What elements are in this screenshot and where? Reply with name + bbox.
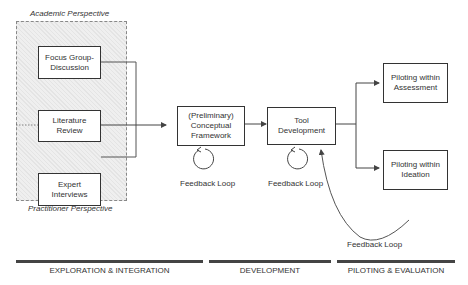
phase-bar-piloting: [337, 260, 455, 263]
box-label: Literature: [53, 116, 87, 126]
phase-bar-development: [209, 260, 331, 263]
framework-feedback-label: Feedback Loop: [180, 179, 235, 188]
phase-label-exploration: EXPLORATION & INTEGRATION: [16, 266, 203, 275]
box-label: Piloting within: [391, 73, 440, 83]
box-label: Ideation: [391, 170, 440, 180]
box-label: Focus Group-: [45, 53, 94, 63]
box-label: Piloting within: [391, 160, 440, 170]
box-label: Framework: [188, 131, 233, 141]
focus-group-discussion-box: Focus Group-Discussion: [38, 46, 101, 79]
phase-label-piloting: PILOTING & EVALUATION: [337, 266, 455, 275]
conceptual-framework-box: (Preliminary)ConceptualFramework: [177, 106, 245, 146]
piloting-ideation-box: Piloting withinIdeation: [383, 150, 448, 190]
tool-development-box: ToolDevelopment: [267, 107, 336, 145]
box-label: Assessment: [391, 83, 440, 93]
box-label: Interviews: [51, 190, 87, 200]
phase-label-development: DEVELOPMENT: [209, 266, 331, 275]
box-label: Expert: [51, 180, 87, 190]
piloting-feedback-label: Feedback Loop: [347, 240, 402, 249]
box-label: Review: [53, 126, 87, 136]
box-label: Conceptual: [188, 121, 233, 131]
box-label: Development: [278, 126, 325, 136]
box-label: (Preliminary): [188, 111, 233, 121]
literature-review-box: LiteratureReview: [38, 110, 101, 142]
box-label: Tool: [278, 116, 325, 126]
piloting-assessment-box: Piloting withinAssessment: [383, 63, 448, 103]
box-label: Discussion: [45, 63, 94, 73]
feedback-loop-icon: [194, 149, 214, 169]
tool-feedback-label: Feedback Loop: [268, 179, 323, 188]
phase-bar-exploration: [16, 260, 203, 263]
expert-interviews-box: ExpertInterviews: [38, 173, 101, 206]
